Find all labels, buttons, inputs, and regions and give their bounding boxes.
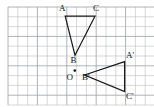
label-o: O bbox=[67, 73, 74, 82]
label-a: A bbox=[59, 4, 66, 13]
geometry-figure-canvas: ACBOB'A'C' bbox=[0, 0, 154, 107]
label-cp: C' bbox=[126, 92, 134, 101]
center-point-marker bbox=[74, 69, 77, 72]
label-ap: A' bbox=[126, 51, 134, 60]
label-bp: B' bbox=[82, 73, 90, 82]
rotation-center-dot bbox=[74, 69, 77, 72]
triangle-abc bbox=[65, 16, 95, 55]
label-b: B bbox=[71, 56, 77, 65]
label-c: C bbox=[93, 4, 99, 13]
